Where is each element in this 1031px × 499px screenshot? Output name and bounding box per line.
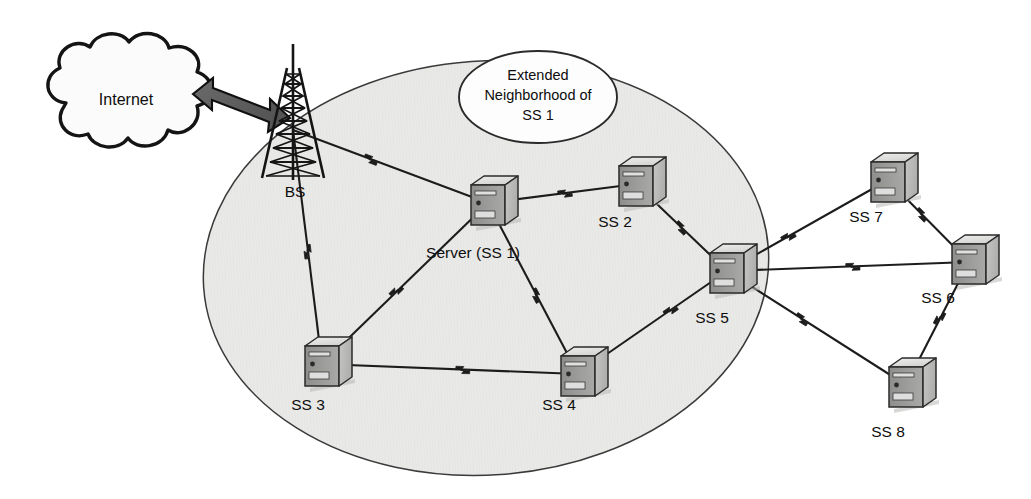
node-label-ss1: Server (SS 1) xyxy=(426,244,520,261)
node-side-face xyxy=(986,235,999,284)
extended-neighborhood-callout-group: Extended Neighborhood of SS 1 xyxy=(459,51,617,143)
node-label-ss4: SS 4 xyxy=(542,396,576,413)
node-vent-icon xyxy=(893,393,913,400)
node-drive-slot-icon xyxy=(714,259,735,263)
node-ss2[interactable] xyxy=(619,157,669,212)
node-drive-slot-icon xyxy=(875,168,896,172)
node-vent-icon xyxy=(475,211,495,218)
internet-label: Internet xyxy=(99,91,154,108)
node-side-face xyxy=(744,244,757,293)
bs-label: BS xyxy=(285,183,306,200)
node-ss1[interactable] xyxy=(471,176,521,231)
node-power-led-icon xyxy=(310,362,315,367)
node-label-ss2: SS 2 xyxy=(598,213,632,230)
node-side-face xyxy=(905,153,918,202)
node-drive-slot-icon xyxy=(565,362,586,366)
node-side-face xyxy=(653,157,666,206)
node-drive-slot-icon xyxy=(309,352,330,356)
node-vent-icon xyxy=(565,382,585,389)
topology-svg: Internet BS Extended Neigh xyxy=(0,0,1031,499)
node-label-ss8: SS 8 xyxy=(871,423,905,440)
node-ss3[interactable] xyxy=(305,337,355,392)
node-side-face xyxy=(595,347,608,396)
internet-cloud-group: Internet xyxy=(48,33,211,147)
node-label-ss3: SS 3 xyxy=(291,396,325,413)
node-label-ss6: SS 6 xyxy=(921,289,955,306)
node-vent-icon xyxy=(714,279,734,286)
node-label-ss7: SS 7 xyxy=(849,208,883,225)
node-ss7[interactable] xyxy=(871,153,921,208)
node-power-led-icon xyxy=(624,182,629,187)
node-side-face xyxy=(923,358,936,407)
callout-line-2: Neighborhood of xyxy=(484,87,592,103)
node-ss4[interactable] xyxy=(561,347,611,402)
node-power-led-icon xyxy=(957,260,962,265)
node-vent-icon xyxy=(309,372,329,379)
node-vent-icon xyxy=(875,188,895,195)
node-ss8[interactable] xyxy=(889,358,939,413)
node-side-face xyxy=(505,176,518,225)
callout-line-3: SS 1 xyxy=(522,107,553,123)
node-vent-icon xyxy=(623,192,643,199)
node-power-led-icon xyxy=(894,383,899,388)
node-power-led-icon xyxy=(476,201,481,206)
node-power-led-icon xyxy=(876,178,881,183)
wireless-zigzag-icon xyxy=(794,313,810,326)
node-drive-slot-icon xyxy=(623,172,644,176)
node-drive-slot-icon xyxy=(893,373,914,377)
node-ss5[interactable] xyxy=(710,244,760,299)
node-ss6[interactable] xyxy=(952,235,1002,290)
network-diagram-canvas: Internet BS Extended Neigh xyxy=(0,0,1031,499)
node-drive-slot-icon xyxy=(475,191,496,195)
wireless-zigzag-icon xyxy=(846,263,860,271)
node-vent-icon xyxy=(956,270,976,277)
wireless-zigzag-icon xyxy=(933,311,946,327)
node-side-face xyxy=(339,337,352,386)
node-power-led-icon xyxy=(715,269,720,274)
node-label-ss5: SS 5 xyxy=(695,309,729,326)
node-power-led-icon xyxy=(566,372,571,377)
callout-line-1: Extended xyxy=(507,67,568,83)
node-drive-slot-icon xyxy=(956,250,977,254)
